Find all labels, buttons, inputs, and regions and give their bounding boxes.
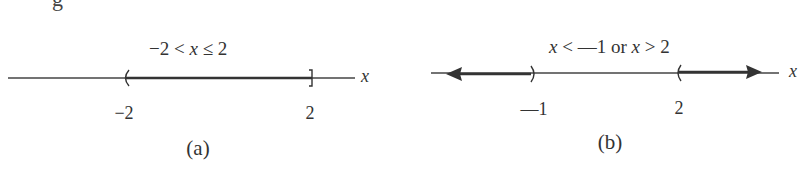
tick-label-b-right: 2 [675,98,684,119]
tick-label-b-left: —1 [521,99,548,120]
open-paren-endpoint-b-left [531,66,534,82]
axis-label-b: x [789,61,797,82]
caption-a: (a) [186,136,209,161]
tick-label-a-right: 2 [306,103,315,124]
tick-label-a-left: −2 [114,103,133,124]
number-line-panel-a: −2 < x ≤ 2 x −2 2 (a) [0,0,400,169]
caption-b: (b) [598,130,623,155]
right-arrowhead-b [746,65,762,79]
left-arrowhead-b [446,67,462,81]
number-line-panel-b: x < —1 or x > 2 x —1 2 (b) [400,0,807,169]
axis-label-a: x [361,66,369,87]
